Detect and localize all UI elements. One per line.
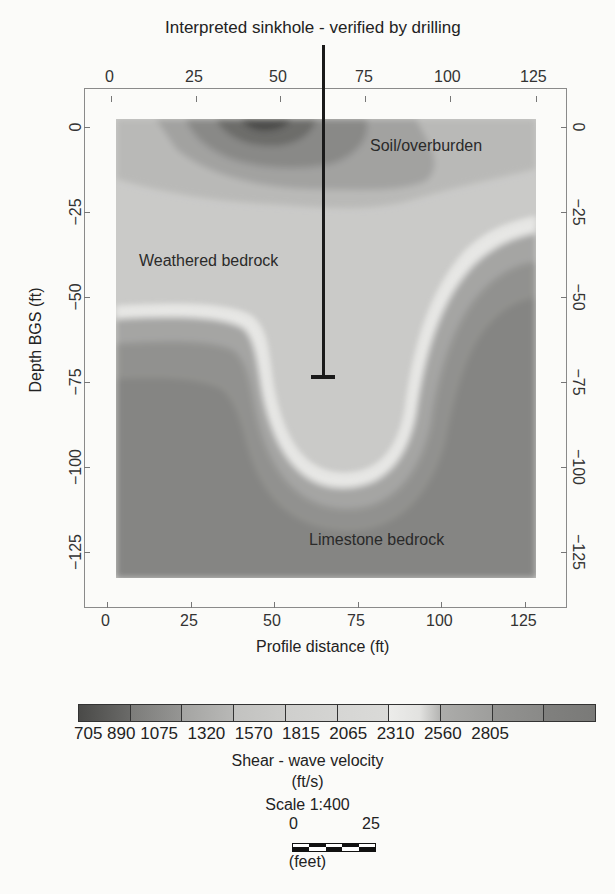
- borehole-line: [322, 45, 325, 377]
- y-axis-title: Depth BGS (ft): [27, 288, 45, 393]
- bottom-tick-label: 50: [263, 612, 281, 630]
- bottom-tick-label: 0: [101, 612, 110, 630]
- right-tick-label: −50: [569, 283, 587, 310]
- colorbar-labels: 705 890 1075 1320 1570 1815 2065 2310 25…: [74, 724, 509, 744]
- right-tick-label: −25: [569, 198, 587, 225]
- bottom-tick-label: 125: [510, 612, 537, 630]
- left-tick-label: −50: [67, 283, 85, 310]
- scale-label: Scale 1:400: [0, 796, 615, 814]
- top-tick-label: 125: [520, 68, 547, 86]
- left-tick-label: −125: [67, 534, 85, 570]
- scale-end-label: 25: [362, 815, 380, 833]
- left-tick-label: 0: [67, 123, 85, 132]
- scale-bar: [292, 843, 376, 852]
- right-tick-label: −100: [569, 449, 587, 485]
- x-axis-title: Profile distance (ft): [256, 638, 389, 656]
- top-tick-label: 0: [105, 68, 114, 86]
- borehole-end-cap: [311, 375, 335, 379]
- bottom-tick-label: 100: [426, 612, 453, 630]
- velocity-heatmap: [116, 119, 536, 578]
- label-weathered-bedrock: Weathered bedrock: [139, 252, 278, 270]
- scale-start-label: 0: [289, 815, 298, 833]
- colorbar: [78, 704, 596, 722]
- label-limestone-bedrock: Limestone bedrock: [309, 531, 444, 549]
- colorbar-units: (ft/s): [0, 773, 615, 791]
- scale-units: (feet): [0, 853, 615, 871]
- right-tick-label: −125: [569, 534, 587, 570]
- top-tick-label: 75: [355, 68, 373, 86]
- label-soil-overburden: Soil/overburden: [370, 137, 482, 155]
- left-tick-label: −25: [67, 198, 85, 225]
- bottom-tick-label: 75: [347, 612, 365, 630]
- top-tick-label: 100: [434, 68, 461, 86]
- right-tick-label: 0: [569, 123, 587, 132]
- colorbar-title: Shear - wave velocity: [0, 752, 615, 770]
- top-tick-label: 25: [185, 68, 203, 86]
- left-tick-label: −100: [67, 449, 85, 485]
- right-tick-label: −75: [569, 368, 587, 395]
- left-tick-label: −75: [67, 368, 85, 395]
- top-tick-label: 50: [269, 68, 287, 86]
- bottom-tick-label: 25: [180, 612, 198, 630]
